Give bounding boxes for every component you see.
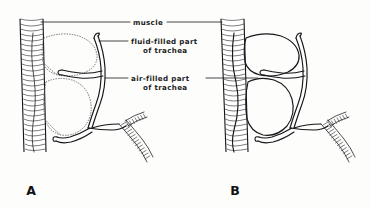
air-filled-label-line2: of trachea bbox=[143, 83, 187, 92]
air-filled-sacs-b bbox=[244, 34, 299, 135]
panel-b: B bbox=[221, 19, 355, 198]
muscle-band-b bbox=[221, 19, 248, 152]
figure-canvas: A bbox=[0, 0, 371, 208]
panel-letter-a: A bbox=[26, 183, 36, 198]
annotation-fluid-filled: fluid-filled part of trachea bbox=[99, 37, 198, 55]
annotation-muscle: muscle bbox=[41, 18, 222, 27]
striated-branch-a bbox=[88, 112, 153, 162]
tracheal-diagram-figure: A bbox=[0, 0, 371, 208]
fluid-filled-label-line2: of trachea bbox=[143, 46, 187, 55]
muscle-label: muscle bbox=[133, 18, 163, 27]
striated-branch-b bbox=[290, 112, 355, 162]
air-filled-label-line1: air-filled part bbox=[131, 74, 190, 83]
muscle-band-a bbox=[20, 19, 46, 152]
fluid-filled-label-line1: fluid-filled part bbox=[131, 37, 198, 46]
panel-a: A bbox=[20, 19, 153, 198]
fluid-filled-sacs-a bbox=[42, 34, 97, 135]
panel-letter-b: B bbox=[230, 183, 240, 198]
